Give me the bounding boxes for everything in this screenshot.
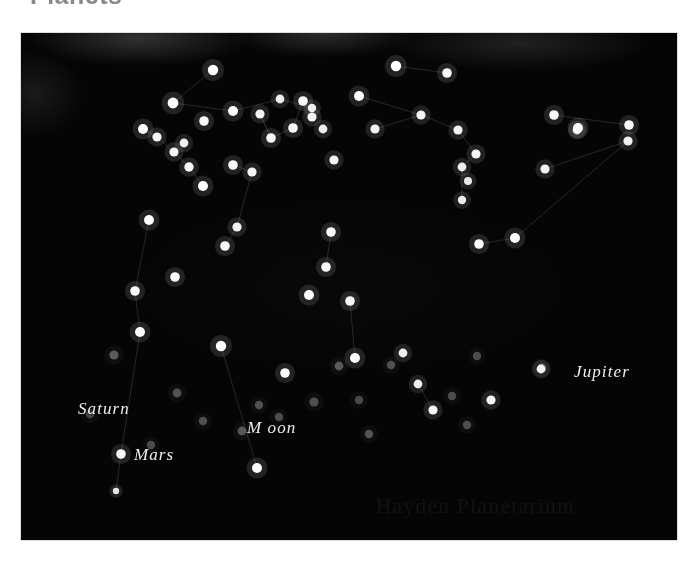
label-mars: Mars [134, 445, 174, 465]
constellation-line [554, 115, 629, 125]
star-dot [175, 134, 193, 152]
label-moon: M oon [247, 418, 296, 438]
star-dot [223, 101, 244, 122]
star-dot [411, 105, 430, 124]
planet-dot-moon [304, 392, 323, 411]
star-dot [324, 150, 343, 169]
planet-dot [443, 387, 461, 405]
planet-dots [81, 345, 551, 453]
star-dot [316, 257, 336, 277]
constellation-line [121, 332, 140, 454]
star-dot [109, 484, 122, 497]
star-dot [162, 92, 185, 115]
planet-dot [360, 425, 378, 443]
planet-dot [104, 345, 123, 364]
star-dot [139, 210, 160, 231]
star-dot [618, 131, 637, 150]
star-dot [345, 348, 366, 369]
star-dot [179, 157, 199, 177]
star-dot [210, 335, 232, 357]
star-dot [340, 291, 360, 311]
planet-dot [250, 396, 268, 414]
star-dot [223, 155, 243, 175]
page-title: Planets [30, 0, 290, 7]
star-dot [532, 360, 550, 378]
planet-dot [350, 391, 368, 409]
constellation-line [545, 141, 628, 169]
planet-dot [194, 412, 212, 430]
star-dot [147, 127, 166, 146]
star-dot [194, 111, 214, 131]
star-dot [202, 59, 224, 81]
star-dot [544, 105, 564, 125]
planet-dot [168, 384, 186, 402]
star-dot [394, 344, 412, 362]
star-dot [481, 390, 500, 409]
star-dot [423, 400, 442, 419]
star-field [21, 33, 677, 540]
star-dot [469, 234, 489, 254]
star-dot [271, 90, 289, 108]
planet-dot [458, 416, 476, 434]
star-dot [460, 173, 477, 190]
constellation-line [515, 141, 628, 238]
label-saturn: Saturn [78, 399, 130, 419]
star-dot [349, 86, 370, 107]
star-dot [466, 144, 485, 163]
star-dot [130, 322, 151, 343]
star-dot [365, 119, 384, 138]
star-dot [111, 444, 131, 464]
star-chart-plate: Saturn Mars M oon Jupiter Hayden Planeta… [21, 33, 677, 540]
star-dot [437, 63, 457, 83]
star-dot [242, 162, 261, 181]
star-dot [385, 55, 407, 77]
star-dot [314, 120, 332, 138]
star-dot [321, 222, 341, 242]
plate-credit-text: Hayden Planetarium [376, 494, 575, 519]
star-dot [448, 120, 467, 139]
star-dot [275, 363, 295, 383]
star-dot [247, 458, 268, 479]
star-dot [227, 217, 246, 236]
star-dot [535, 159, 554, 178]
planet-dot [468, 347, 486, 365]
star-dot [453, 191, 471, 209]
star-dot [505, 228, 526, 249]
star-dot [193, 176, 214, 197]
star-dot [409, 375, 427, 393]
star-dot [165, 267, 185, 287]
star-dot [299, 285, 320, 306]
label-jupiter: Jupiter [574, 362, 630, 382]
star-dot [283, 118, 303, 138]
star-dot [261, 128, 281, 148]
star-dot [303, 99, 321, 117]
star-dot [250, 104, 269, 123]
star-dot [568, 121, 586, 139]
star-dot [125, 281, 145, 301]
star-dot [215, 236, 235, 256]
constellation-line [135, 220, 149, 291]
